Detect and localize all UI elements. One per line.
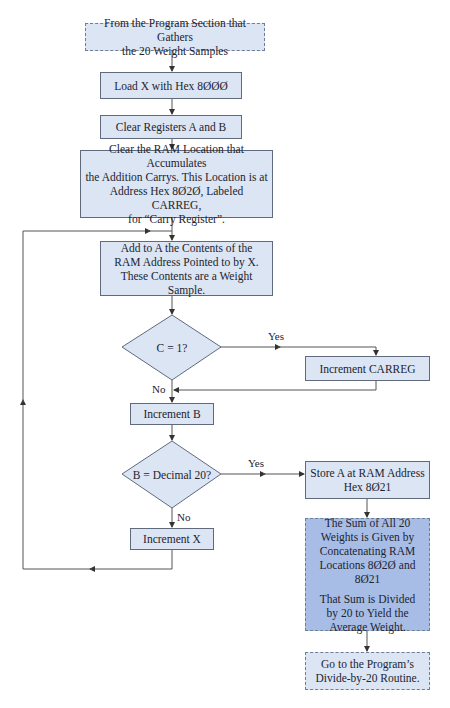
sum-line-5: That Sum is Divided bbox=[320, 592, 416, 606]
store-line-1: Store A at RAM Address bbox=[310, 466, 424, 480]
inc-x-label: Increment X bbox=[143, 532, 201, 546]
sum-line-4: Locations 8Ø2Ø and 8Ø21 bbox=[310, 558, 425, 586]
inc-b-step: Increment B bbox=[130, 403, 214, 425]
end-line-1: Go to the Program’s bbox=[321, 657, 414, 671]
clear-ram-line-1: Clear the RAM Location that Accumulates bbox=[85, 142, 268, 170]
end-line-2: Divide-by-20 Routine. bbox=[315, 671, 419, 685]
inc-carreg-label: Increment CARREG bbox=[319, 362, 415, 376]
decision-carry-label: C = 1? bbox=[157, 342, 188, 354]
add-to-a-step: Add to A the Contents of the RAM Address… bbox=[100, 241, 273, 296]
inc-b-label: Increment B bbox=[143, 407, 200, 421]
clear-ram-line-4: for “Carry Register”. bbox=[128, 212, 225, 226]
sum-line-6: by 20 to Yield the bbox=[320, 606, 416, 620]
add-line-3: These Contents are a Weight Sample. bbox=[105, 269, 268, 297]
end-terminal: Go to the Program’s Divide-by-20 Routine… bbox=[305, 652, 430, 690]
clear-ab-label: Clear Registers A and B bbox=[116, 120, 227, 134]
sum-line-1: The Sum of All 20 bbox=[310, 516, 425, 530]
sum-line-2: Weights is Given by bbox=[310, 530, 425, 544]
carry-no-label: No bbox=[152, 383, 165, 395]
add-line-1: Add to A the Contents of the bbox=[121, 241, 253, 255]
start-line-2: the 20 Weight Samples bbox=[122, 44, 228, 58]
start-terminal: From the Program Section that Gathers th… bbox=[85, 23, 265, 51]
decision-b-label: B = Decimal 20? bbox=[133, 469, 211, 481]
sum-note: The Sum of All 20 Weights is Given by Co… bbox=[305, 518, 430, 631]
store-a-step: Store A at RAM Address Hex 8Ø21 bbox=[305, 461, 430, 499]
store-line-2: Hex 8Ø21 bbox=[344, 480, 392, 494]
inc-carreg-step: Increment CARREG bbox=[305, 356, 430, 381]
clear-ram-line-2: the Addition Carrys. This Location is at bbox=[85, 170, 267, 184]
b-yes-label: Yes bbox=[248, 457, 264, 469]
sum-line-7: Average Weight. bbox=[320, 620, 416, 634]
load-x-step: Load X with Hex 8ØØØ bbox=[100, 72, 242, 99]
carry-yes-label: Yes bbox=[268, 330, 284, 342]
load-x-label: Load X with Hex 8ØØØ bbox=[114, 79, 228, 93]
inc-x-step: Increment X bbox=[130, 528, 214, 550]
clear-ram-line-3: Address Hex 8Ø2Ø, Labeled CARREG, bbox=[85, 184, 268, 212]
b-no-label: No bbox=[177, 511, 190, 523]
add-line-2: RAM Address Pointed to by X. bbox=[114, 255, 258, 269]
sum-para-1: The Sum of All 20 Weights is Given by Co… bbox=[310, 516, 425, 586]
sum-line-3: Concatenating RAM bbox=[310, 544, 425, 558]
start-line-1: From the Program Section that Gathers bbox=[90, 16, 260, 44]
clear-ram-step: Clear the RAM Location that Accumulates … bbox=[80, 150, 273, 218]
clear-ab-step: Clear Registers A and B bbox=[100, 115, 242, 139]
sum-para-2: That Sum is Divided by 20 to Yield the A… bbox=[320, 592, 416, 634]
